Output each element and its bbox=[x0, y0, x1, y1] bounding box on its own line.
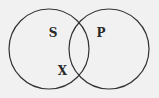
label-x: X bbox=[58, 64, 68, 78]
label-p: P bbox=[96, 26, 105, 40]
label-s: S bbox=[49, 26, 58, 40]
circle-p bbox=[69, 9, 149, 89]
venn-diagram: S P X bbox=[0, 0, 159, 98]
circle-s bbox=[9, 9, 89, 89]
